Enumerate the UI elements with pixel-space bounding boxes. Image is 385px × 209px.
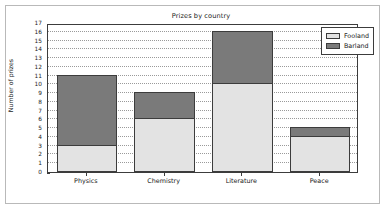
bar-segment[interactable] (212, 83, 273, 172)
y-axis-tick-label: 9 (26, 91, 42, 97)
bar-segment[interactable] (290, 136, 351, 172)
y-axis-tick-mark (47, 173, 50, 174)
y-axis-tick-label: 10 (26, 82, 42, 88)
legend-swatch (326, 43, 340, 49)
y-axis-tick-label: 11 (26, 74, 42, 80)
y-axis-tick-label: 0 (26, 170, 42, 176)
y-axis-tick-label: 3 (26, 144, 42, 150)
bar-group[interactable] (57, 24, 118, 172)
y-axis-tick-label: 15 (26, 39, 42, 45)
y-axis-tick-label: 17 (26, 21, 42, 27)
y-axis-tick-label: 5 (26, 126, 42, 132)
bar-series-container (48, 25, 357, 172)
bar-segment[interactable] (57, 75, 118, 146)
y-axis-tick-label: 8 (26, 100, 42, 106)
x-axis-tick-mark (319, 173, 320, 176)
x-axis-tick-mark (164, 173, 165, 176)
bar-segment[interactable] (134, 92, 195, 119)
legend-item[interactable]: Fooland (326, 31, 369, 41)
y-axis-tick-label: 12 (26, 65, 42, 71)
y-axis-tick-label: 7 (26, 109, 42, 115)
x-axis-tick-label: Physics (47, 177, 125, 185)
bar-segment[interactable] (290, 127, 351, 137)
chart-title: Prizes by country (36, 12, 366, 20)
plot-area (47, 24, 358, 173)
legend[interactable]: FoolandBarland (321, 27, 374, 55)
y-axis-label: Number of prizes (7, 43, 14, 129)
y-axis-tick-label: 14 (26, 47, 42, 53)
bar-segment[interactable] (57, 145, 118, 172)
bar-segment[interactable] (212, 31, 273, 85)
x-axis-tick-label: Literature (203, 177, 281, 185)
y-axis-tick-label: 1 (26, 161, 42, 167)
legend-label: Fooland (344, 32, 369, 40)
legend-swatch (326, 33, 340, 39)
bar-group[interactable] (134, 24, 195, 172)
x-axis-tick-label: Peace (280, 177, 358, 185)
legend-label: Barland (344, 42, 369, 50)
figure-canvas: Prizes by country Number of prizes 01234… (0, 0, 385, 209)
y-axis-tick-label: 2 (26, 152, 42, 158)
bar-segment[interactable] (134, 118, 195, 172)
x-axis-tick-label: Chemistry (125, 177, 203, 185)
y-axis-tick-label: 16 (26, 30, 42, 36)
y-axis-tick-label: 13 (26, 56, 42, 62)
y-axis-tick-label: 4 (26, 135, 42, 141)
bar-group[interactable] (212, 24, 273, 172)
x-axis-tick-mark (241, 173, 242, 176)
x-axis-tick-mark (86, 173, 87, 176)
legend-item[interactable]: Barland (326, 41, 369, 51)
y-axis-tick-label: 6 (26, 117, 42, 123)
